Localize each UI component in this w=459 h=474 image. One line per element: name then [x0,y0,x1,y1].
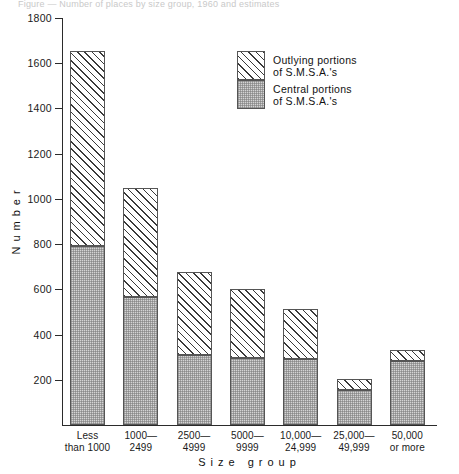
y-tick-800 [55,244,63,245]
legend-label-central-line2: of S.M.S.A.'s [273,95,352,107]
y-tick-label-1600: 1600 [27,58,52,68]
legend-label-central: Central portions of S.M.S.A.'s [273,83,352,107]
y-tick-label-1200: 1200 [27,149,52,159]
x-axis-title: Size group [62,456,437,468]
y-tick-label-800: 800 [34,239,52,249]
bar-segment-outlying [177,272,212,355]
x-tick-label-6-line1: 50,000 [370,430,444,442]
bar-segment-outlying [123,188,158,298]
bar-segment-central [230,358,265,425]
y-tick-label-600: 600 [34,284,52,294]
stacked-bar [337,379,372,425]
y-tick-1800 [55,18,63,19]
stacked-bar [230,289,265,425]
bar-segment-outlying [230,289,265,358]
y-axis-title: Number [10,160,22,280]
bar-segment-central [123,297,158,425]
legend-label-outlying-line2: of S.M.S.A.'s [273,66,357,78]
bar-segment-outlying [390,350,425,360]
x-tick-label-6: 50,000or more [370,430,444,454]
stacked-bar [283,309,318,425]
stacked-bar [70,51,105,425]
legend-label-outlying: Outlying portions of S.M.S.A.'s [273,54,357,78]
legend-label-central-line1: Central portions [273,83,352,95]
legend-swatches [237,51,265,109]
bar-segment-central [337,390,372,425]
y-tick-label-1000: 1000 [27,194,52,204]
y-tick-label-1400: 1400 [27,103,52,113]
bar-chart: Figure — Number of places by size group,… [0,0,459,474]
bar-segment-central [390,361,425,425]
y-tick-1000 [55,199,63,200]
central-stipple-swatch [237,80,265,109]
x-tick-label-6-line2: or more [370,442,444,454]
y-tick-1600 [55,63,63,64]
y-tick-1200 [55,154,63,155]
outlying-hatch-swatch [237,51,265,80]
bar-segment-outlying [70,51,105,247]
bar-segment-outlying [337,379,372,390]
bar-segment-outlying [283,309,318,360]
y-axis-line [62,18,63,426]
y-tick-label-1800: 1800 [27,13,52,23]
bar-segment-central [283,359,318,425]
legend: Outlying portions of S.M.S.A.'s Central … [237,51,412,109]
y-tick-200 [55,380,63,381]
bar-segment-central [177,355,212,425]
bar-segment-central [70,246,105,425]
y-tick-label-200: 200 [34,375,52,385]
y-tick-1400 [55,108,63,109]
stacked-bar [177,272,212,425]
stacked-bar [390,350,425,425]
legend-label-outlying-line1: Outlying portions [273,54,357,66]
stacked-bar [123,188,158,425]
x-axis-line [62,425,437,426]
figure-title-cropped: Figure — Number of places by size group,… [18,0,438,9]
y-tick-400 [55,335,63,336]
y-tick-label-400: 400 [34,330,52,340]
y-tick-600 [55,289,63,290]
